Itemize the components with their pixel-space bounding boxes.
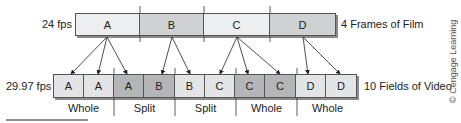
field-label: D	[337, 80, 345, 92]
frame-label: D	[299, 19, 307, 31]
group-label-whole: Whole	[297, 102, 358, 114]
film-frame-c: C	[204, 13, 270, 36]
video-field-1: A	[53, 74, 84, 98]
video-field-8: C	[264, 74, 296, 98]
video-field-7: C	[234, 74, 265, 98]
field-label: D	[307, 80, 315, 92]
film-strip: A B C D	[75, 13, 336, 36]
video-caption: 10 Fields of Video	[364, 80, 452, 92]
video-field-9: D	[295, 74, 326, 98]
video-strip: A A A B B C C C D D	[53, 74, 357, 98]
film-caption: 4 Frames of Film	[341, 18, 424, 30]
group-label-whole: Whole	[236, 102, 297, 114]
frame-label: B	[168, 19, 175, 31]
field-label: C	[276, 80, 284, 92]
video-field-4: B	[143, 74, 175, 98]
video-rate-label: 29.97 fps	[6, 80, 51, 92]
video-field-5: B	[174, 74, 205, 98]
video-field-2: A	[83, 74, 114, 98]
film-frame-b: B	[140, 13, 204, 36]
field-label: A	[125, 80, 132, 92]
field-label: B	[186, 80, 193, 92]
field-label: B	[155, 80, 162, 92]
group-label-split: Split	[114, 102, 175, 114]
video-field-10: D	[325, 74, 357, 98]
video-field-3: A	[113, 74, 144, 98]
film-frame-d: D	[270, 13, 336, 36]
frame-label: C	[233, 19, 241, 31]
group-label-whole: Whole	[53, 102, 114, 114]
field-label: C	[246, 80, 254, 92]
film-frame-a: A	[75, 13, 140, 36]
frame-label: A	[104, 19, 111, 31]
copyright-notice: © Cengage Learning	[448, 20, 458, 103]
field-label: C	[216, 80, 224, 92]
field-label: A	[65, 80, 72, 92]
group-label-split: Split	[175, 102, 236, 114]
field-label: A	[95, 80, 102, 92]
video-field-6: C	[204, 74, 235, 98]
film-rate-label: 24 fps	[42, 18, 72, 30]
